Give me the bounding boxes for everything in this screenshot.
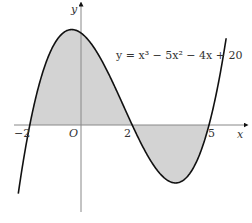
tick-label-2: 2 (124, 127, 131, 140)
cubic-graph: y x O −2 2 5 y = x³ − 5x² − 4x + 20 (0, 0, 252, 223)
equation-label: y = x³ − 5x² − 4x + 20 (115, 49, 242, 62)
origin-label: O (69, 127, 78, 140)
tick-label-neg2: −2 (14, 127, 30, 140)
tick-label-5: 5 (208, 127, 215, 140)
y-axis-label: y (70, 3, 78, 16)
x-axis-label: x (237, 128, 244, 141)
